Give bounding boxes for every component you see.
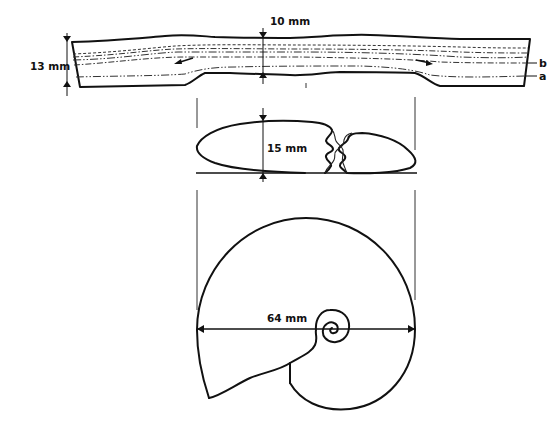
cross-section: 15 mm <box>196 108 417 182</box>
layer-line <box>73 52 528 60</box>
thin-thickness-label: 10 mm <box>270 15 310 27</box>
thickness-label: 13 mm <box>30 60 70 72</box>
height-label: 15 mm <box>267 142 307 154</box>
dimension-64mm: 64 mm <box>197 312 415 333</box>
layer-line-b <box>74 57 527 65</box>
band-outline <box>72 35 530 87</box>
shell-measurement-diagram: 13 mm 10 mm b a <box>0 0 553 423</box>
left-whorl <box>197 121 333 173</box>
projection-guides <box>197 83 415 310</box>
band-section: 13 mm 10 mm b a <box>30 15 547 96</box>
flow-arrow-left <box>174 58 193 64</box>
right-whorl <box>339 133 416 173</box>
shell-side-view: 64 mm <box>197 218 415 409</box>
layer-label-a: a <box>539 70 546 83</box>
layer-label-b: b <box>539 57 547 70</box>
layer-line <box>73 49 528 57</box>
dimension-13mm: 13 mm <box>30 33 71 96</box>
diameter-label: 64 mm <box>267 312 307 324</box>
layer-labels: b a <box>526 57 547 83</box>
